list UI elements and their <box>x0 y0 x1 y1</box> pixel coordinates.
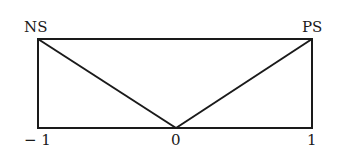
label-minus-one: − 1 <box>24 133 51 148</box>
label-ps: PS <box>302 20 322 35</box>
label-ns: NS <box>24 20 47 35</box>
membership-diagram <box>0 0 340 159</box>
frame-rectangle <box>38 39 312 128</box>
ns-diagonal <box>38 39 176 128</box>
label-one: 1 <box>307 133 317 148</box>
label-zero: 0 <box>171 133 181 148</box>
ps-diagonal <box>176 39 312 128</box>
